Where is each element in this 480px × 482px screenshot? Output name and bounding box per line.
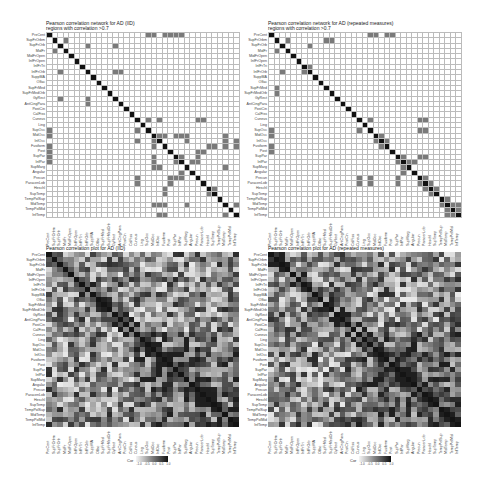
- legend-tick: 0.0: [152, 462, 156, 466]
- legend-tick: -0.5: [367, 462, 372, 466]
- chart-subtitle: regions with correlation >0.7: [46, 25, 109, 31]
- column-label: SupFrMed: [323, 220, 329, 246]
- chart-title: Pearson correlation plot for AD (repeate…: [268, 245, 384, 251]
- column-label: ParacenLob: [422, 428, 428, 454]
- column-label: InfFrTri: [79, 428, 85, 454]
- column-label: Cuneus: [134, 220, 140, 246]
- column-label: SupTemp: [433, 220, 439, 246]
- column-label: SupTemp: [211, 428, 217, 454]
- row-label: InfTemp: [254, 212, 267, 217]
- heatmap-cell: [456, 213, 462, 218]
- column-label: InfFrTri: [301, 220, 307, 246]
- column-label: InfTemp: [455, 428, 461, 454]
- column-label: Angular: [411, 220, 417, 246]
- legend-tick: 0.5: [382, 462, 386, 466]
- column-label: Angular: [189, 428, 195, 454]
- column-label: PostCin: [345, 220, 351, 246]
- column-label: SupOcc: [145, 428, 151, 454]
- legend-tick: -0.5: [144, 462, 149, 466]
- color-legend: Cor -1.0-0.50.00.51.0: [350, 456, 393, 466]
- column-label: SupFrMed: [101, 428, 107, 454]
- column-label: SupFrOrb: [279, 428, 285, 454]
- column-label: SupTemp: [211, 220, 217, 246]
- column-label: InfPar: [178, 220, 184, 246]
- column-label: SupFrOrb: [57, 220, 63, 246]
- column-label: MidFrOpen: [68, 220, 74, 246]
- column-label: InfFrTri: [79, 220, 85, 246]
- column-label: Cuneus: [356, 428, 362, 454]
- column-label: PreCent: [46, 220, 52, 246]
- column-label: ParacenLob: [200, 220, 206, 246]
- column-label: SuppMA: [312, 220, 318, 246]
- color-legend: Cor -1.0-0.50.00.51.0: [127, 456, 170, 466]
- column-label: Angular: [189, 220, 195, 246]
- column-labels: PreCentSupFrOrbmSupFrOrbMidFrMidFrOpenIn…: [46, 428, 239, 454]
- column-label: PreCent: [268, 428, 274, 454]
- column-label: InfTemp: [455, 220, 461, 246]
- column-label: SupFrOrb: [279, 220, 285, 246]
- column-label: MidFrOpen: [290, 428, 296, 454]
- legend-title: Cor: [350, 458, 356, 463]
- column-label: MidTemp: [222, 220, 228, 246]
- column-label: Cuneus: [356, 220, 362, 246]
- column-label: InfTemp: [233, 428, 239, 454]
- column-label: PostCin: [123, 428, 129, 454]
- legend-ticks: -1.0-0.50.00.51.0: [136, 462, 170, 466]
- column-label: MidTemp: [444, 428, 450, 454]
- column-label: SupFrMed: [323, 428, 329, 454]
- column-label: Post: [167, 428, 173, 454]
- column-label: InfTemp: [233, 220, 239, 246]
- column-label: InfOcc: [378, 428, 384, 454]
- column-label: InfFrTri: [301, 428, 307, 454]
- row-labels: PreCentSupFrOrbmSupFrOrbMidFrMidFrOpenIn…: [222, 252, 267, 427]
- row-labels: PreCentSupFrOrbmSupFrOrbMidFrMidFrOpenIn…: [0, 252, 45, 427]
- column-labels: PreCentSupFrOrbmSupFrOrbMidFrMidFrOpenIn…: [46, 220, 239, 246]
- row-label: InfTemp: [254, 422, 267, 427]
- column-label: InfOcc: [378, 220, 384, 246]
- chart-subtitle: regions with correlation >0.7: [268, 25, 331, 31]
- column-label: Cuneus: [134, 428, 140, 454]
- column-label: GyRect: [334, 428, 340, 454]
- column-label: Post: [389, 428, 395, 454]
- column-label: InfPar: [400, 220, 406, 246]
- legend-tick: -1.0: [359, 462, 364, 466]
- column-label: SuppMA: [90, 220, 96, 246]
- legend-tick: 0.0: [375, 462, 379, 466]
- column-labels: PreCentSupFrOrbmSupFrOrbMidFrMidFrOpenIn…: [268, 220, 461, 246]
- row-labels: PreCentSupFrOrbmSupFrOrbMidFrMidFrOpenIn…: [222, 32, 267, 217]
- column-label: SupFrOrb: [57, 428, 63, 454]
- row-label: InfTemp: [32, 422, 45, 427]
- column-label: Post: [167, 220, 173, 246]
- column-label: SupOcc: [145, 220, 151, 246]
- column-label: SupOcc: [367, 220, 373, 246]
- column-label: Post: [389, 220, 395, 246]
- column-label: GyRect: [112, 428, 118, 454]
- column-label: MidTemp: [222, 428, 228, 454]
- column-label: PreCent: [46, 428, 52, 454]
- network-grid: [46, 32, 240, 218]
- legend-tick: 0.5: [159, 462, 163, 466]
- legend-ticks: -1.0-0.50.00.51.0: [359, 462, 393, 466]
- legend-tick: 1.0: [389, 462, 393, 466]
- row-labels: PreCentSupFrOrbmSupFrOrbMidFrMidFrOpenIn…: [0, 32, 45, 217]
- column-label: MidFrOpen: [68, 428, 74, 454]
- column-label: SupTemp: [433, 428, 439, 454]
- column-label: MidFrOpen: [290, 220, 296, 246]
- column-label: PostCin: [345, 428, 351, 454]
- column-label: GyRect: [334, 220, 340, 246]
- column-label: GyRect: [112, 220, 118, 246]
- column-label: InfPar: [400, 428, 406, 454]
- column-label: SuppMA: [90, 428, 96, 454]
- legend-tick: 1.0: [166, 462, 170, 466]
- column-label: ParacenLob: [200, 428, 206, 454]
- legend-tick: -1.0: [136, 462, 141, 466]
- column-labels: PreCentSupFrOrbmSupFrOrbMidFrMidFrOpenIn…: [268, 428, 461, 454]
- column-label: PreCent: [268, 220, 274, 246]
- column-label: PostCin: [123, 220, 129, 246]
- chart-title: Pearson correlation plot for AD (IID): [46, 245, 125, 251]
- column-label: Angular: [411, 428, 417, 454]
- column-label: MidTemp: [444, 220, 450, 246]
- row-label: InfTemp: [32, 212, 45, 217]
- column-label: SupFrMed: [101, 220, 107, 246]
- column-label: SuppMA: [312, 428, 318, 454]
